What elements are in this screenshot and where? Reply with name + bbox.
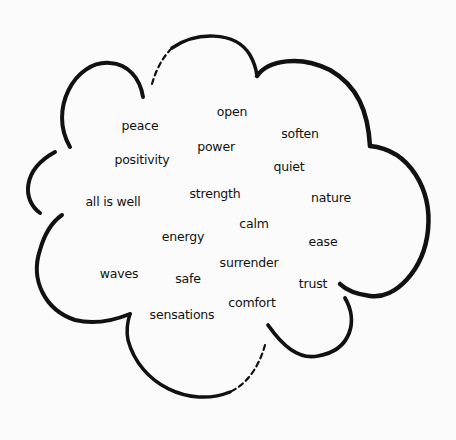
cloud-word: waves: [100, 266, 138, 281]
cloud-word: energy: [162, 229, 204, 244]
cloud-word: nature: [311, 190, 351, 205]
cloud-word: all is well: [85, 194, 140, 209]
cloud-word: safe: [175, 271, 200, 286]
cloud-word: open: [217, 104, 247, 119]
cloud-word: quiet: [274, 159, 305, 174]
cloud-word: strength: [189, 186, 240, 201]
cloud-word: power: [197, 139, 235, 154]
cloud-word: peace: [122, 118, 159, 133]
cloud-word: soften: [281, 126, 319, 141]
cloud-word: calm: [239, 216, 268, 231]
cloud-word: ease: [309, 234, 338, 249]
cloud-word: surrender: [220, 255, 279, 270]
cloud-word: sensations: [150, 307, 215, 322]
cloud-outline: [0, 0, 456, 440]
thought-cloud-diagram: openpeacepowersoftenpositivityquietstren…: [0, 0, 456, 440]
cloud-word: trust: [299, 276, 327, 291]
cloud-word: comfort: [228, 295, 275, 310]
cloud-word: positivity: [114, 152, 169, 167]
